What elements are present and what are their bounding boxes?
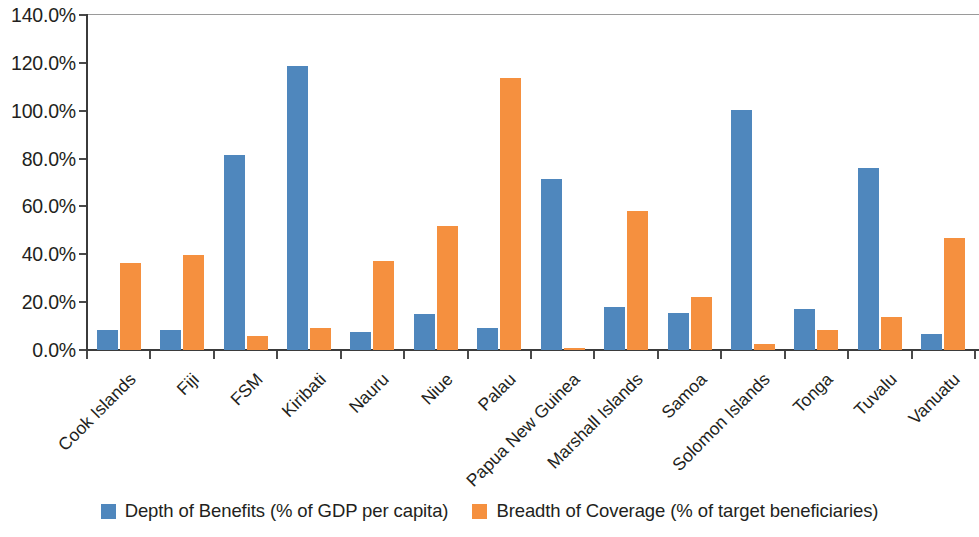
bar-breadth [183,255,204,350]
x-axis-tick [974,351,976,359]
x-axis-tick [530,351,532,359]
legend-swatch-depth [101,504,116,519]
bar-chart: 0.0%20.0%40.0%60.0%80.0%100.0%120.0%140.… [0,0,979,537]
y-axis-tick-label: 40.0% [0,243,76,266]
bar-breadth [817,330,838,350]
x-axis-tick [593,351,595,359]
bar-depth [794,309,815,350]
bar-depth [414,314,435,350]
y-axis-tick-label: 20.0% [0,291,76,314]
y-axis-tick-label: 100.0% [0,100,76,123]
x-axis-tick [149,351,151,359]
legend-label: Breadth of Coverage (% of target benefic… [496,500,878,522]
bar-breadth [437,226,458,350]
y-axis-tick-label: 0.0% [0,339,76,362]
bar-depth [350,332,371,350]
chart-legend: Depth of Benefits (% of GDP per capita)B… [0,500,979,522]
x-axis-tick [847,351,849,359]
bar-depth [224,155,245,350]
x-axis-tick [86,351,88,359]
x-axis-tick [911,351,913,359]
legend-label: Depth of Benefits (% of GDP per capita) [125,500,449,522]
bar-depth [541,179,562,350]
bar-breadth [691,297,712,350]
x-axis-tick [467,351,469,359]
plot-area [87,15,975,350]
x-axis-tick [403,351,405,359]
y-axis-tick-label: 120.0% [0,52,76,75]
x-axis-tick [657,351,659,359]
x-axis-tick [784,351,786,359]
bar-depth [668,313,689,350]
x-axis-tick [276,351,278,359]
legend-item[interactable]: Breadth of Coverage (% of target benefic… [472,500,878,522]
bar-depth [731,110,752,350]
y-axis-tick-label: 60.0% [0,195,76,218]
bar-breadth [310,328,331,350]
bar-breadth [500,78,521,350]
bar-breadth [944,238,965,350]
bar-breadth [881,317,902,350]
x-axis-tick [340,351,342,359]
bar-breadth [373,261,394,350]
bar-depth [160,330,181,350]
bar-breadth [120,263,141,350]
bar-breadth [627,211,648,350]
bar-breadth [754,344,775,350]
bar-depth [287,66,308,350]
bar-depth [604,307,625,350]
x-axis-tick [213,351,215,359]
bar-depth [921,334,942,350]
y-axis-tick-label: 140.0% [0,4,76,27]
y-axis-tick-label: 80.0% [0,148,76,171]
bar-depth [97,330,118,350]
bar-depth [858,168,879,350]
x-axis-tick [720,351,722,359]
bar-depth [477,328,498,350]
legend-swatch-breadth [472,504,487,519]
bar-breadth [247,336,268,350]
legend-item[interactable]: Depth of Benefits (% of GDP per capita) [101,500,449,522]
bar-breadth [564,348,585,350]
